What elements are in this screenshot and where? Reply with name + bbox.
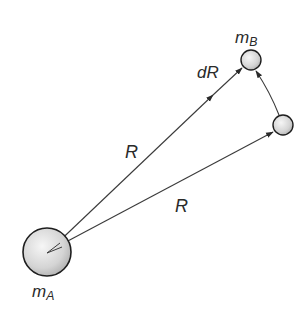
label-mass-a-main: m xyxy=(32,282,46,301)
sphere-mass-a xyxy=(23,228,71,276)
sphere-mass-b-initial xyxy=(273,115,293,135)
label-mass-a: mA xyxy=(32,283,54,302)
vector-r-to-mb xyxy=(49,68,242,251)
label-dr: dR xyxy=(197,64,219,81)
label-r-upper: R xyxy=(125,143,138,161)
label-mass-b: mB xyxy=(235,29,257,48)
vector-dr-arc xyxy=(256,71,279,115)
vector-r-to-initial xyxy=(49,132,273,251)
gravitation-diagram: mB dR R R mA xyxy=(0,0,303,334)
label-r-lower: R xyxy=(175,197,188,215)
sphere-mass-b xyxy=(241,50,261,70)
label-mass-b-subscript: B xyxy=(249,35,257,49)
label-mass-b-main: m xyxy=(235,28,249,47)
label-mass-a-subscript: A xyxy=(46,289,54,303)
